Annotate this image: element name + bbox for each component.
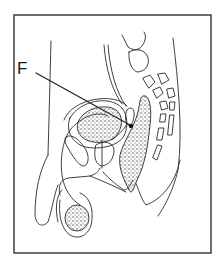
abdominal-wall-outline [48, 41, 51, 155]
urethra [59, 168, 100, 195]
label-f-target-dot [129, 124, 133, 128]
rectum [120, 96, 151, 192]
pubic-bone [65, 136, 88, 166]
testis [65, 205, 89, 231]
perineum-line-2 [90, 176, 126, 192]
label-f: F [17, 59, 27, 78]
anatomy-diagram: F [0, 0, 222, 260]
penis-outline [35, 155, 58, 225]
